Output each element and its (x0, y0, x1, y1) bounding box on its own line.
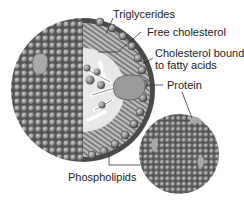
large-lipoprotein-particle (11, 18, 155, 162)
lipoprotein-diagram: Triglycerides Free cholesterol Cholester… (0, 0, 244, 206)
label-triglycerides: Triglycerides (113, 8, 175, 20)
small-lipoprotein-particle (139, 114, 219, 194)
protein-block-icon (114, 75, 146, 100)
label-phospholipids: Phospholipids (68, 171, 137, 183)
label-cholesterol-bound-line1: Cholesterol bound (155, 47, 244, 59)
label-protein: Protein (167, 79, 202, 91)
label-free-cholesterol: Free cholesterol (147, 26, 226, 38)
label-cholesterol-bound-line2: to fatty acids (155, 59, 217, 71)
protein-patch-icon (32, 53, 47, 74)
